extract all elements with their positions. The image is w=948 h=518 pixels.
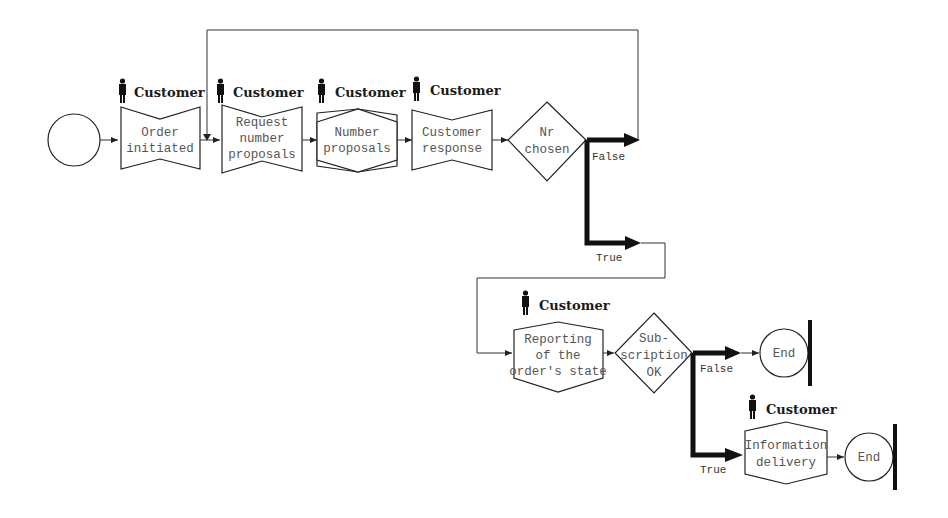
person-icon — [119, 78, 126, 103]
role-label: Customer — [233, 85, 304, 100]
branch-label-true: True — [700, 464, 726, 476]
end-event-1[interactable]: End — [760, 320, 810, 386]
node-text-line: Number — [334, 126, 379, 140]
role-label: Customer — [335, 85, 406, 100]
node-text-line: order's state — [509, 365, 607, 379]
node-reporting-order-state[interactable]: Customer Reporting of the order's state — [509, 290, 610, 392]
node-text-line: of the — [535, 349, 580, 363]
node-text-line: Nr — [539, 126, 554, 140]
end-event-2[interactable]: End — [845, 424, 895, 490]
node-text-line: Information — [745, 439, 828, 453]
node-text-line: Request — [236, 116, 289, 130]
branch-label-true: True — [596, 252, 622, 264]
process-flow-diagram: Customer Order initiated Customer Reques… — [0, 0, 948, 518]
decision-subscription-ok[interactable]: Sub- scription OK — [615, 313, 692, 393]
person-icon — [749, 394, 756, 419]
role-label: Customer — [430, 83, 501, 98]
node-text-line: response — [422, 142, 482, 156]
end-label: End — [858, 451, 881, 465]
node-text-line: Customer — [422, 126, 482, 140]
node-number-proposals[interactable]: Customer Number proposals — [317, 78, 406, 172]
branch-nr-chosen-false[interactable]: False — [587, 133, 640, 163]
branch-label-false: False — [592, 151, 625, 163]
node-text-line: OK — [646, 366, 662, 380]
branch-subscription-false[interactable]: False — [693, 346, 741, 375]
person-icon — [413, 76, 420, 101]
node-request-number-proposals[interactable]: Customer Request number proposals — [217, 78, 304, 173]
node-text-line: Reporting — [524, 333, 592, 347]
node-customer-response[interactable]: Customer Customer response — [412, 76, 501, 170]
end-label: End — [773, 347, 796, 361]
branch-label-false: False — [700, 363, 733, 375]
decision-nr-chosen[interactable]: Nr chosen — [508, 102, 586, 181]
node-text-line: initiated — [126, 142, 194, 156]
node-text-line: number — [239, 132, 284, 146]
node-order-initiated[interactable]: Customer Order initiated — [119, 78, 205, 169]
person-icon — [318, 78, 325, 103]
role-label: Customer — [134, 85, 205, 100]
node-text-line: chosen — [524, 143, 569, 157]
person-icon — [522, 290, 529, 315]
person-icon — [217, 78, 224, 103]
role-label: Customer — [539, 298, 610, 313]
node-text-line: scription — [620, 349, 688, 363]
node-text-line: proposals — [323, 142, 391, 156]
node-text-line: Order — [141, 126, 179, 140]
node-text-line: Sub- — [639, 332, 669, 346]
node-text-line: delivery — [756, 456, 817, 470]
node-text-line: proposals — [228, 148, 296, 162]
start-event[interactable] — [48, 114, 100, 166]
role-label: Customer — [766, 402, 837, 417]
node-information-delivery[interactable]: Customer Information delivery — [745, 394, 837, 484]
